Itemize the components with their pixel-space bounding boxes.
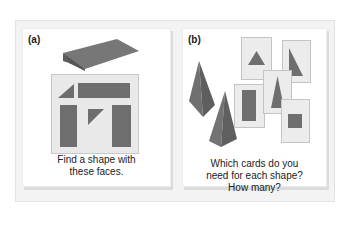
panel-b-label: (b) bbox=[188, 34, 201, 45]
rectangle-face-right bbox=[112, 105, 131, 147]
rectangle-shape-icon bbox=[242, 90, 256, 121]
rectangle-face-left bbox=[60, 105, 77, 147]
panel-a-caption: Find a shape with these faces. bbox=[23, 154, 170, 178]
card-rectangle bbox=[234, 84, 265, 128]
card-square bbox=[281, 99, 310, 143]
rectangle-face-top bbox=[78, 83, 130, 98]
panel-b-caption: Which cards do you need for each shape? … bbox=[183, 158, 326, 194]
square-shape-icon bbox=[288, 114, 302, 128]
panel-a: (a) Find a shape with these faces. bbox=[22, 28, 171, 187]
equilateral-triangle-icon bbox=[248, 51, 265, 65]
panel-b: (b) Which cards do you need for ea bbox=[182, 28, 327, 187]
triangle-face-center-icon bbox=[88, 109, 104, 125]
triangle-face-icon bbox=[58, 84, 74, 98]
square-pyramid-icon bbox=[209, 91, 237, 147]
panel-a-label: (a) bbox=[28, 34, 40, 45]
faces-board bbox=[51, 74, 139, 154]
triangular-prism-icon bbox=[63, 39, 143, 73]
